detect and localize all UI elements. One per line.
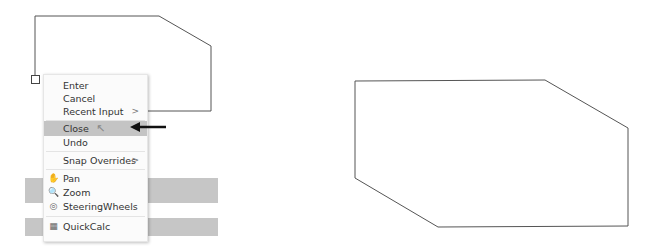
context-menu: Enter Cancel Recent Input> Close Undo Sn… [43, 74, 148, 242]
menu-separator [46, 169, 145, 170]
steeringwheels-icon: ◎ [48, 201, 59, 212]
zoom-icon: 🔍 [48, 187, 59, 198]
menu-item-zoom[interactable]: 🔍Zoom [44, 185, 147, 200]
menu-item-steeringwheels[interactable]: ◎SteeringWheels [44, 199, 147, 214]
closed-polygon-drawing [355, 80, 628, 227]
menu-item-quickcalc[interactable]: ▦QuickCalc [44, 219, 147, 234]
menu-item-snap-overrides[interactable]: Snap Overrides> [44, 153, 147, 168]
chevron-right-icon: > [131, 104, 139, 119]
menu-item-pan[interactable]: ✋Pan [44, 171, 147, 186]
menu-item-recent-input[interactable]: Recent Input> [44, 104, 147, 119]
mouse-cursor-icon: ↖ [96, 122, 105, 135]
menu-separator [46, 151, 145, 152]
chevron-right-icon: > [131, 153, 139, 168]
quickcalc-icon: ▦ [48, 221, 59, 232]
pan-icon: ✋ [48, 173, 59, 184]
menu-item-undo[interactable]: Undo [44, 135, 147, 150]
endpoint-grip[interactable] [31, 75, 40, 84]
menu-separator [46, 216, 145, 217]
